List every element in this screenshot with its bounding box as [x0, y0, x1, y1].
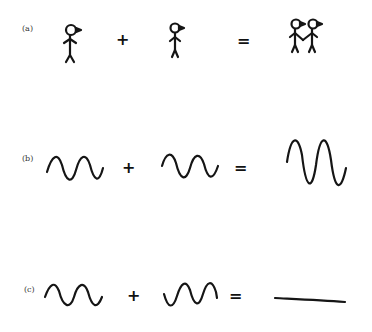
amplified-wave-icon [287, 140, 346, 185]
flat-line-icon [275, 298, 345, 302]
stick-figure-icon [170, 24, 184, 58]
stick-figure-icon [64, 25, 81, 62]
wave-icon [45, 285, 102, 305]
wave-icon [47, 157, 103, 180]
wave-icon [162, 155, 218, 178]
drawing-canvas [0, 0, 372, 332]
two-figures-holding-hands-icon [290, 20, 322, 53]
inverted-wave-icon [164, 283, 217, 305]
